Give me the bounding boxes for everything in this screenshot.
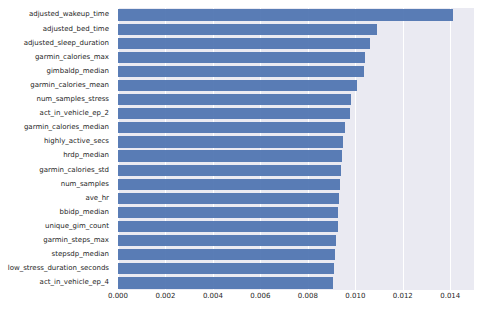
y-tick-label-garmin_steps_max: garmin_steps_max	[43, 235, 109, 246]
y-tick-label-num_samples_stress: num_samples_stress	[36, 94, 109, 105]
bar-hrdp_median	[118, 150, 342, 161]
feature-importance-bar-chart: adjusted_wakeup_timeadjusted_bed_timeadj…	[0, 0, 485, 322]
bar-act_in_vehicle_ep_2	[118, 108, 350, 119]
x-tick-label-0: 0.000	[108, 292, 128, 300]
y-tick-label-ave_hr: ave_hr	[85, 193, 109, 204]
bar-bbidp_median	[118, 207, 338, 218]
y-tick-label-adjusted_bed_time: adjusted_bed_time	[43, 24, 109, 35]
y-tick-label-unique_gim_count: unique_gim_count	[45, 221, 109, 232]
bar-row	[118, 108, 350, 119]
y-tick-label-adjusted_wakeup_time: adjusted_wakeup_time	[29, 9, 109, 20]
bar-row	[118, 221, 338, 232]
y-axis-tick-labels: adjusted_wakeup_timeadjusted_bed_timeadj…	[0, 8, 114, 290]
bar-garmin_calories_median	[118, 122, 345, 133]
bar-act_in_vehicle_ep_4	[118, 277, 333, 288]
bar-row	[118, 179, 340, 190]
bar-row	[118, 165, 341, 176]
bar-row	[118, 38, 370, 49]
bar-row	[118, 193, 339, 204]
x-tick-label-2: 0.004	[203, 292, 223, 300]
bar-row	[118, 122, 345, 133]
y-tick-label-adjusted_sleep_duration: adjusted_sleep_duration	[24, 38, 109, 49]
y-tick-label-garmin_calories_std: garmin_calories_std	[39, 165, 109, 176]
bar-highly_active_secs	[118, 136, 343, 147]
bar-row	[118, 277, 333, 288]
y-tick-label-garmin_calories_mean: garmin_calories_mean	[30, 80, 109, 91]
bar-num_samples	[118, 179, 340, 190]
bar-adjusted_sleep_duration	[118, 38, 370, 49]
bar-row	[118, 150, 342, 161]
bar-gimbaldp_median	[118, 66, 364, 77]
x-tick-label-7: 0.014	[440, 292, 460, 300]
x-tick-label-1: 0.002	[155, 292, 175, 300]
bars-layer	[118, 8, 474, 290]
bar-garmin_steps_max	[118, 235, 336, 246]
y-tick-label-act_in_vehicle_ep_4: act_in_vehicle_ep_4	[40, 277, 109, 288]
bar-stepsdp_median	[118, 249, 335, 260]
y-tick-label-garmin_calories_median: garmin_calories_median	[24, 122, 109, 133]
x-tick-label-3: 0.006	[250, 292, 270, 300]
y-tick-label-gimbaldp_median: gimbaldp_median	[46, 66, 109, 77]
bar-ave_hr	[118, 193, 339, 204]
bar-row	[118, 235, 336, 246]
bar-garmin_calories_mean	[118, 80, 357, 91]
bar-num_samples_stress	[118, 94, 351, 105]
y-tick-label-low_stress_duration_seconds: low_stress_duration_seconds	[8, 263, 109, 274]
x-tick-label-6: 0.012	[393, 292, 413, 300]
bar-row	[118, 24, 377, 35]
y-tick-label-bbidp_median: bbidp_median	[60, 207, 109, 218]
x-tick-label-4: 0.008	[298, 292, 318, 300]
x-tick-label-5: 0.010	[345, 292, 365, 300]
bar-garmin_calories_max	[118, 52, 365, 63]
y-tick-label-stepsdp_median: stepsdp_median	[52, 249, 109, 260]
bar-unique_gim_count	[118, 221, 338, 232]
y-tick-label-garmin_calories_max: garmin_calories_max	[35, 52, 109, 63]
plot-area	[118, 8, 474, 290]
bar-row	[118, 52, 365, 63]
bar-adjusted_bed_time	[118, 24, 377, 35]
bar-row	[118, 80, 357, 91]
bar-adjusted_wakeup_time	[118, 9, 453, 20]
bar-row	[118, 66, 364, 77]
bar-row	[118, 263, 334, 274]
y-tick-label-hrdp_median: hrdp_median	[63, 150, 109, 161]
y-tick-label-highly_active_secs: highly_active_secs	[44, 136, 109, 147]
bar-row	[118, 136, 343, 147]
bar-low_stress_duration_seconds	[118, 263, 334, 274]
bar-row	[118, 249, 335, 260]
bar-row	[118, 94, 351, 105]
y-tick-label-act_in_vehicle_ep_2: act_in_vehicle_ep_2	[40, 108, 109, 119]
bar-row	[118, 207, 338, 218]
x-axis-tick-labels: 0.0000.0020.0040.0060.0080.0100.0120.014	[0, 292, 485, 308]
y-tick-label-num_samples: num_samples	[61, 179, 109, 190]
bar-row	[118, 9, 453, 20]
bar-garmin_calories_std	[118, 165, 341, 176]
